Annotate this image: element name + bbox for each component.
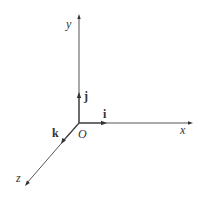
i-arrowhead [101, 121, 107, 125]
y-axis-arrowhead [77, 14, 80, 19]
x-axis-label: x [179, 123, 186, 137]
z-axis-label: z [15, 171, 21, 185]
z-axis: z [15, 123, 79, 186]
x-axis-arrowhead [188, 121, 193, 124]
j-arrowhead [77, 92, 81, 98]
k-label: k [52, 126, 59, 140]
coordinate-diagram: y x z j i k O [0, 0, 219, 197]
unit-vector-i: i [79, 107, 107, 125]
origin-label: O [78, 127, 87, 141]
x-axis: x [79, 121, 193, 137]
y-axis-label: y [65, 17, 72, 31]
y-axis: y [65, 14, 81, 123]
unit-vector-k: k [52, 123, 79, 144]
i-label: i [103, 107, 107, 121]
j-label: j [83, 89, 88, 103]
unit-vector-j: j [77, 89, 88, 123]
